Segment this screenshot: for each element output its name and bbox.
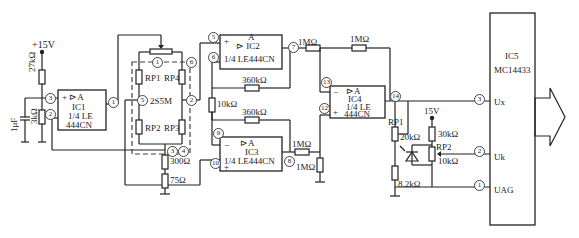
rp2-label: RP2 — [145, 124, 161, 133]
r8k2-label: 8.2kΩ — [398, 180, 420, 189]
rp1-label: RP1 — [145, 74, 161, 83]
pin-1-ic5: 1 — [474, 180, 485, 191]
ic5-uk: Uk — [494, 153, 505, 162]
pin-5-sensor: 5 — [137, 95, 148, 106]
pin-2-sensor: 2 — [186, 95, 197, 106]
r27k-label: 27kΩ — [28, 52, 37, 72]
ic4-plus: + — [333, 108, 338, 117]
ic1-part2: 444CN — [66, 121, 92, 130]
pin-2-ic1: 2 — [45, 109, 56, 120]
rp4-label: RP4 — [164, 74, 180, 83]
ic1-symbol: + ⊳A — [62, 93, 84, 102]
c1u-label: 1μF — [10, 118, 19, 132]
pin-6-sensor: 6 — [186, 57, 197, 68]
pin-12-ic4: 12 — [319, 103, 330, 114]
ic5-ux: Ux — [494, 98, 505, 107]
pin-9-ic3: 9 — [213, 128, 224, 139]
pin-8-ic3: 8 — [284, 156, 295, 167]
ic4-minus: − — [333, 88, 338, 97]
r10k-label: 10kΩ — [217, 100, 237, 109]
rp2-value: 10kΩ — [438, 157, 458, 166]
pin-1-ic1: 1 — [108, 97, 119, 108]
rp1-value: 20kΩ — [400, 133, 420, 142]
ic5-part: MC14433 — [494, 66, 531, 75]
r75-label: 75Ω — [170, 176, 186, 185]
pin-3-ic5: 3 — [474, 94, 485, 105]
pin-3-ic1: 3 — [45, 93, 56, 104]
pin-6-ic2: 6 — [208, 52, 219, 63]
r300-label: 300Ω — [170, 157, 190, 166]
r1M-d-label: 1MΩ — [296, 163, 315, 172]
r360k-b-label: 360kΩ — [242, 108, 267, 117]
sensor-name: 2S5M — [150, 97, 172, 106]
pin-14-ic4: 14 — [390, 91, 401, 102]
ic4-part2: 444CN — [344, 110, 370, 119]
ic3-part: 1/4 LE444CN — [224, 157, 275, 166]
ic3-minus: − — [224, 141, 229, 150]
pin-2-ic5: 2 — [474, 146, 485, 157]
ic5-uag: UAG — [494, 186, 514, 195]
ic2-part: 1/4 LE444CN — [224, 55, 275, 64]
r1M-b-label: 1MΩ — [350, 35, 369, 44]
r1M-a-label: 1MΩ — [298, 38, 317, 47]
circuit-diagram: +15V 27kΩ 3kΩ 1μF 3 2 1 + ⊳A IC1 1/4 LE … — [0, 0, 579, 238]
supply-label-right: 15V — [424, 107, 440, 116]
ic5-name: IC5 — [505, 52, 519, 61]
pin-13-ic4: 13 — [321, 77, 332, 88]
pin-5-ic2: 5 — [208, 32, 219, 43]
r3k-label: 3kΩ — [30, 108, 39, 124]
r1M-c-label: 1MΩ — [292, 140, 311, 149]
r30k-label: 30kΩ — [438, 130, 458, 139]
ic2-symbol: ⊳ IC2 — [236, 42, 260, 51]
rp3-label: RP3 — [164, 124, 180, 133]
rp1-pot-label: RP1 — [388, 118, 404, 127]
pin-1-sensor: 1 — [152, 57, 163, 68]
pin-10-ic3: 10 — [210, 158, 221, 169]
ic3-plus: + — [224, 163, 229, 172]
rp2-pot-label: RP2 — [436, 143, 452, 152]
ic2-plus: + — [224, 37, 229, 46]
r360k-a-label: 360kΩ — [242, 76, 267, 85]
supply-label-left: +15V — [32, 40, 55, 50]
